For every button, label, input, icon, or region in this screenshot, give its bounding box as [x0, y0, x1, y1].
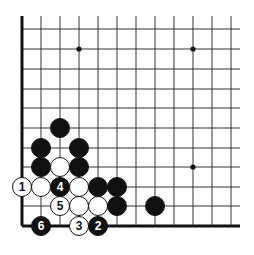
black-stone: 2 — [89, 217, 108, 236]
stones: 145632 — [13, 119, 165, 236]
black-stone-icon — [146, 197, 165, 216]
white-stone-icon — [70, 178, 89, 197]
black-stone-icon — [70, 139, 89, 158]
white-stone-icon — [51, 158, 70, 177]
black-stone — [32, 158, 51, 177]
black-stone-icon — [32, 158, 51, 177]
move-number-label: 5 — [57, 199, 64, 213]
black-stone — [70, 158, 89, 177]
white-stone: 1 — [13, 178, 32, 197]
black-stone — [89, 178, 108, 197]
black-stone — [70, 139, 89, 158]
white-stone: 5 — [51, 197, 70, 216]
white-stone — [89, 197, 108, 216]
white-stone: 3 — [70, 217, 89, 236]
white-stone-icon — [32, 178, 51, 197]
black-stone-icon — [89, 178, 108, 197]
black-stone: 6 — [32, 217, 51, 236]
white-stone — [70, 197, 89, 216]
black-stone — [32, 139, 51, 158]
white-stone-icon — [89, 197, 108, 216]
star-point-icon — [190, 164, 195, 169]
black-stone — [108, 178, 127, 197]
move-number-label: 3 — [76, 219, 83, 233]
star-point-icon — [190, 46, 195, 51]
move-number-label: 4 — [57, 180, 64, 194]
black-stone: 4 — [51, 178, 70, 197]
white-stone — [70, 178, 89, 197]
white-stone — [51, 158, 70, 177]
black-stone-icon — [51, 119, 70, 138]
black-stone-icon — [108, 197, 127, 216]
black-stone — [108, 197, 127, 216]
star-point-icon — [76, 46, 81, 51]
black-stone-icon — [32, 139, 51, 158]
black-stone — [51, 119, 70, 138]
black-stone-icon — [70, 158, 89, 177]
move-number-label: 6 — [38, 219, 45, 233]
white-stone-icon — [70, 197, 89, 216]
move-number-label: 2 — [95, 219, 102, 233]
black-stone — [146, 197, 165, 216]
move-number-label: 1 — [19, 180, 26, 194]
white-stone — [32, 178, 51, 197]
go-board-diagram: 145632 — [0, 0, 254, 255]
black-stone-icon — [108, 178, 127, 197]
